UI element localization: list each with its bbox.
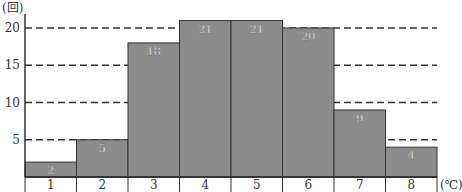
bar-value-label: 20 (301, 30, 315, 43)
x-tick-3: 3 (150, 178, 158, 192)
y-tick-10: 10 (5, 96, 20, 110)
bar-6 (283, 28, 335, 177)
bars: 251821212094 (25, 21, 437, 178)
y-tick-5: 5 (12, 133, 20, 147)
y-tick-20: 20 (5, 21, 20, 35)
x-tick-4: 4 (201, 178, 209, 192)
x-tick-7: 7 (356, 178, 364, 192)
y-tick-15: 15 (5, 58, 20, 72)
bar-3 (128, 43, 180, 177)
x-tick-5: 5 (253, 178, 261, 192)
bar-value-label: 5 (99, 142, 106, 155)
y-axis-unit-label: (回) (2, 1, 23, 15)
x-tick-8: 8 (407, 178, 415, 192)
bar-value-label: 2 (47, 164, 54, 177)
bar-value-label: 4 (408, 149, 415, 162)
x-tick-1: 1 (47, 178, 55, 192)
bar-value-label: 9 (356, 112, 363, 125)
histogram-chart: 251821212094 5101520 12345678 (回) (℃) (0, 0, 462, 192)
bar-value-label: 21 (198, 23, 212, 36)
bar-5 (231, 21, 283, 177)
bar-value-label: 21 (250, 23, 264, 36)
x-axis-unit-label: (℃) (440, 178, 462, 192)
bar-value-label: 18 (147, 45, 161, 58)
x-tick-6: 6 (304, 178, 312, 192)
bar-4 (180, 21, 232, 177)
x-tick-2: 2 (98, 178, 106, 192)
y-tick-labels: 5101520 (5, 21, 20, 147)
